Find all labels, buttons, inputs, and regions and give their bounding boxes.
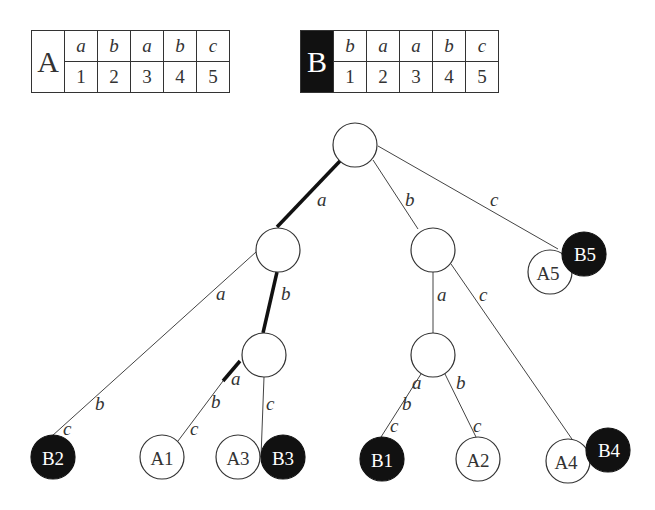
edge-label: b — [95, 393, 105, 414]
internal-node-ba — [411, 333, 455, 377]
edge-label: a — [412, 372, 422, 393]
edge-labels: a b c a b b c a b c c a c a b c b c — [63, 189, 499, 439]
leaf-label: A5 — [536, 263, 559, 284]
edge-label: c — [390, 415, 399, 436]
edge-n3-c — [261, 377, 264, 457]
edge-label: b — [281, 283, 291, 304]
internal-node-ab — [242, 333, 286, 377]
edge-label: c — [266, 393, 275, 414]
suffix-tree: a b c a b b c a b c c a c a b c b c B2 A… — [0, 0, 655, 510]
leaf-label: B4 — [598, 440, 621, 461]
edge-label: c — [473, 415, 482, 436]
edge-label: b — [405, 189, 415, 210]
internal-node-b — [411, 228, 455, 272]
internal-nodes — [242, 123, 455, 377]
edge-label: a — [231, 368, 241, 389]
internal-node-a — [256, 228, 300, 272]
leaf-label: A1 — [150, 448, 173, 469]
edge-label: b — [402, 393, 412, 414]
leaf-label: A2 — [466, 450, 489, 471]
leaf-label: B5 — [574, 244, 596, 265]
leaf-label: B2 — [42, 448, 64, 469]
edge-root-a — [277, 161, 340, 227]
leaf-label: B1 — [371, 450, 393, 471]
edge-label: b — [456, 372, 466, 393]
edge-label: c — [190, 418, 199, 439]
leaf-label: A3 — [226, 448, 249, 469]
edge-label: c — [490, 189, 499, 210]
edge-label: a — [437, 284, 447, 305]
leaf-nodes: B2 A1 A3 B3 B1 A2 A4 B4 A5 B5 — [31, 232, 630, 483]
edge-label: b — [211, 391, 221, 412]
edge-n1-b — [263, 272, 277, 333]
edge-label: c — [63, 418, 72, 439]
root-node — [333, 123, 377, 167]
edge-label: a — [317, 189, 327, 210]
leaf-label: A4 — [554, 452, 578, 473]
edge-label: c — [479, 284, 488, 305]
edge-label: a — [216, 283, 226, 304]
leaf-label: B3 — [272, 448, 294, 469]
edge-n1-abc — [52, 252, 256, 436]
